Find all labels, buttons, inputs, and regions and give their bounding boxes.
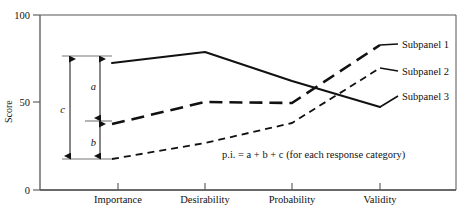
series-leader-subpanel-1: [380, 44, 398, 45]
plot-frame: [40, 15, 456, 190]
figure-container: 100 50 0 Score Importance Desirability P…: [0, 0, 470, 214]
x-category-label-probability: Probability: [269, 194, 316, 205]
annotation-label-b: b: [91, 137, 96, 148]
series-label-subpanel-3: Subpanel 3: [402, 91, 449, 102]
annotation-label-c: c: [60, 104, 65, 115]
series-leader-subpanel-2: [380, 68, 398, 71]
y-tick-label-100: 100: [14, 10, 30, 21]
x-category-label-desirability: Desirability: [180, 194, 230, 205]
y-axis-title: Score: [3, 100, 14, 123]
x-category-label-validity: Validity: [363, 194, 397, 205]
chart-svg: 100 50 0 Score Importance Desirability P…: [0, 0, 470, 214]
series-line-subpanel-1: [112, 52, 380, 107]
annotation-formula-note: p.i. = a + b + c (for each response cate…: [222, 149, 406, 161]
x-category-label-importance: Importance: [94, 194, 142, 205]
series-label-subpanel-1: Subpanel 1: [402, 39, 449, 50]
series-leader-subpanel-3: [380, 96, 398, 107]
y-tick-label-50: 50: [20, 97, 31, 108]
series-line-subpanel-2: [112, 45, 380, 124]
series-label-subpanel-2: Subpanel 2: [402, 66, 449, 77]
y-tick-label-0: 0: [25, 185, 30, 196]
annotation-label-a: a: [91, 81, 96, 92]
